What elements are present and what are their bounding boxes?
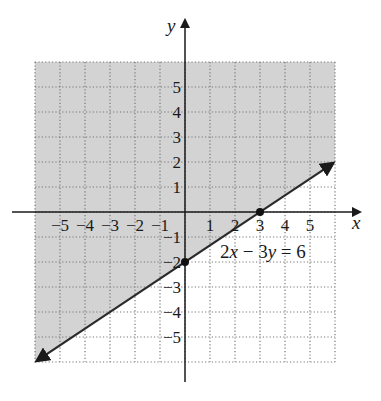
x-tick-label: 2 (231, 216, 240, 235)
y-tick-label: −2 (163, 253, 181, 272)
coordinate-plane: −5−4−3−2−11234554321−1−2−3−4−5 x y 2x − … (0, 0, 381, 401)
y-tick-label: 4 (173, 103, 182, 122)
intercept-point (181, 258, 189, 266)
x-tick-label: 1 (206, 216, 215, 235)
x-tick-label: 4 (281, 216, 290, 235)
y-tick-label: 2 (173, 153, 182, 172)
x-tick-label: 3 (256, 216, 265, 235)
y-tick-label: −1 (163, 228, 181, 247)
x-tick-label: −3 (101, 216, 119, 235)
equation-rhs: = 6 (276, 241, 306, 262)
y-tick-label: −3 (163, 278, 181, 297)
x-tick-label: −5 (51, 216, 69, 235)
y-tick-label: 1 (173, 178, 182, 197)
intercept-point (256, 208, 264, 216)
equation-coefficient: 2 (220, 241, 230, 262)
equation-label: 2x − 3y = 6 (220, 241, 306, 262)
x-tick-label: −4 (76, 216, 95, 235)
equation-var-y: y (266, 241, 277, 262)
y-tick-label: −5 (163, 328, 181, 347)
x-tick-label: −2 (126, 216, 144, 235)
x-tick-label: 5 (306, 216, 315, 235)
y-tick-label: 3 (173, 128, 182, 147)
y-tick-label: 5 (173, 78, 182, 97)
y-axis-label: y (165, 15, 176, 36)
equation-operator: − 3 (238, 241, 268, 262)
y-tick-label: −4 (163, 303, 182, 322)
x-axis-label: x (351, 212, 361, 233)
